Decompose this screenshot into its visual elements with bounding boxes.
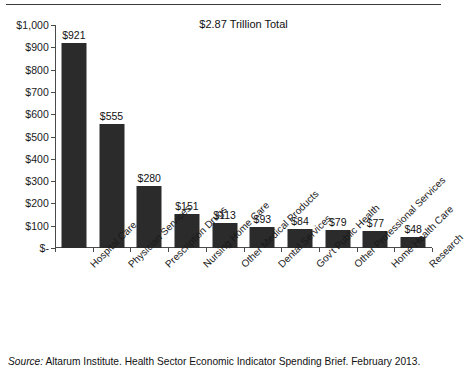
- x-tick-mark: [394, 248, 395, 252]
- y-tick-label: $200: [1, 197, 49, 209]
- source-note: Source: Altarum Institute. Health Sector…: [8, 356, 420, 367]
- y-tick-label: $900: [1, 41, 49, 53]
- bar-slot: $555: [93, 25, 131, 248]
- bar-slot: $921: [55, 25, 93, 248]
- x-tick-mark: [432, 248, 433, 252]
- bar-value-label: $921: [62, 29, 85, 41]
- y-tick-label: $700: [1, 86, 49, 98]
- x-tick-mark: [281, 248, 282, 252]
- y-tick-label: $800: [1, 64, 49, 76]
- y-tick-label: $-: [1, 242, 49, 254]
- x-tick-mark: [130, 248, 131, 252]
- y-tick-label: $600: [1, 108, 49, 120]
- x-tick-mark: [55, 248, 56, 252]
- x-tick-mark: [319, 248, 320, 252]
- y-tick-label: $1,000: [1, 19, 49, 31]
- x-tick-mark: [168, 248, 169, 252]
- x-tick-mark: [357, 248, 358, 252]
- bar-value-label: $555: [100, 110, 123, 122]
- y-tick-label: $300: [1, 175, 49, 187]
- source-label: Source:: [8, 356, 43, 367]
- x-tick-mark: [206, 248, 207, 252]
- x-tick-mark: [244, 248, 245, 252]
- y-tick-label: $100: [1, 220, 49, 232]
- x-tick-mark: [93, 248, 94, 252]
- bar[interactable]: [61, 43, 86, 248]
- y-tick-label: $400: [1, 153, 49, 165]
- y-tick-label: $500: [1, 131, 49, 143]
- header-divider: [6, 4, 441, 5]
- bar-chart: $2.87 Trillion Total $-$100$200$300$400$…: [0, 10, 447, 310]
- source-text: Altarum Institute. Health Sector Economi…: [43, 356, 420, 367]
- bar-value-label: $280: [138, 172, 161, 184]
- bar-slot: $280: [130, 25, 168, 248]
